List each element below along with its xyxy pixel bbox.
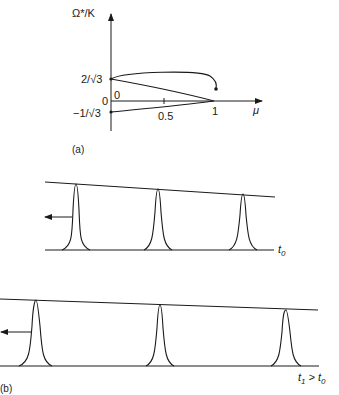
curve-start-dot: [109, 110, 112, 113]
x-tick-label-1: 1: [212, 105, 218, 117]
curve-mid-dot: [109, 77, 112, 80]
soliton-peak-2: [146, 305, 174, 366]
soliton-peak-3: [229, 194, 257, 250]
soliton-peak-1: [19, 300, 52, 366]
x-axis-label: μ: [252, 104, 259, 116]
panel-a-caption: (a): [72, 144, 84, 155]
soliton-peak-2: [144, 189, 172, 250]
x-tick-label-0.5: 0.5: [158, 110, 173, 122]
panel-b-snapshot-t0: t0: [45, 182, 286, 258]
time-label-t0: t0: [278, 243, 286, 258]
curve-end-dot: [214, 87, 218, 91]
y-tick-label-2-over-root3: 2/√3: [81, 73, 102, 85]
panel-a: Ω*/K μ 2/√3 0 −1/√3 0 0.5 1 (a): [72, 7, 262, 155]
panel-b-caption: (b): [0, 383, 12, 394]
panel-b-snapshot-t1: t1 > t0 (b): [0, 299, 326, 394]
y-axis-label: Ω*/K: [72, 7, 96, 19]
omega-curve: [111, 72, 216, 112]
figure: Ω*/K μ 2/√3 0 −1/√3 0 0.5 1 (a) t0 t1 > …: [0, 0, 339, 395]
x-tick-label-0: 0: [114, 89, 120, 101]
time-label-t1-gt-t0: t1 > t0: [298, 371, 326, 386]
y-tick-label-0: 0: [102, 95, 108, 107]
y-tick-label-minus-1-over-root3: −1/√3: [73, 107, 101, 119]
soliton-peak-3: [271, 310, 301, 366]
